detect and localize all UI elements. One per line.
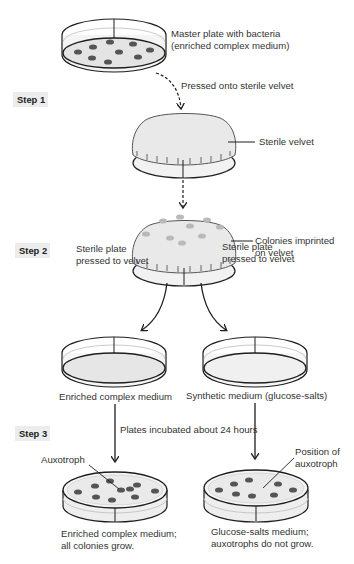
colony [232, 491, 240, 496]
step-2-badge: Step 2 [15, 243, 50, 258]
colony [92, 494, 100, 499]
colony [126, 486, 134, 491]
dashed-arrow-master-to-velvet [156, 73, 181, 108]
step-1-badge: Step 1 [13, 92, 48, 107]
synthetic-medium-label: Synthetic medium (glucose-salts) [186, 390, 327, 401]
colony [89, 44, 97, 49]
sterile-plate-right-line2: pressed to velvet [222, 253, 295, 264]
step-3-badge: Step 3 [15, 426, 50, 441]
colony [215, 487, 223, 492]
step-1-label: Step 1 [17, 94, 45, 105]
colony [108, 497, 116, 502]
sterile-velvet-label: Sterile velvet [259, 136, 314, 147]
colony [248, 493, 256, 498]
master-plate-label-line2: (enriched complex medium) [171, 40, 289, 51]
colony [106, 39, 114, 44]
imprinted-colony [216, 224, 224, 229]
colony [131, 494, 139, 499]
arrow-to-synthetic-plate [201, 283, 226, 330]
imprinted-colony [186, 223, 194, 228]
colony [270, 492, 278, 497]
sterile-velvet [132, 114, 255, 179]
colony [115, 49, 123, 54]
colony [146, 47, 154, 52]
colony [88, 55, 96, 60]
enriched-result-plate [63, 465, 167, 522]
synthetic-medium-plate [203, 337, 307, 387]
imprinted-colony [203, 217, 211, 222]
colony [133, 482, 141, 487]
colony [230, 481, 238, 486]
pressed-onto-velvet-label: Pressed onto sterile velvet [181, 80, 294, 91]
colony [289, 487, 297, 492]
sterile-plate-right-line1: Sterile plate [222, 241, 273, 252]
position-of-auxotroph-line2: auxotroph [295, 458, 338, 469]
colony [245, 477, 253, 482]
colony [74, 489, 82, 494]
sterile-plate-left-line1: Sterile plate [76, 243, 127, 254]
position-of-auxotroph-line1: Position of [295, 446, 340, 457]
master-plate-label-line1: Master plate with bacteria [171, 28, 281, 39]
colony [104, 59, 112, 64]
sterile-plate-left-line2: pressed to velvet [76, 255, 149, 266]
imprinted-colony [176, 214, 184, 219]
colony [74, 49, 82, 54]
imprinted-colony [178, 240, 186, 245]
colony [91, 483, 99, 488]
imprinted-colony [166, 235, 174, 240]
step-2-label: Step 2 [19, 245, 47, 256]
result-right-line2: auxotrophs do not grow. [211, 538, 313, 549]
colony [274, 481, 282, 486]
colony [134, 54, 142, 59]
result-left-line1: Enriched complex medium; [61, 528, 177, 539]
auxotroph-label: Auxotroph [41, 454, 85, 465]
arrow-to-enriched-plate [142, 283, 167, 330]
enriched-medium-label: Enriched complex medium [59, 391, 172, 402]
incubated-label: Plates incubated about 24 hours [120, 424, 258, 435]
imprinted-colony [159, 218, 167, 223]
result-right-line1: Glucose-salts medium; [211, 526, 309, 537]
result-left-line2: all colonies grow. [61, 540, 134, 551]
colony [129, 41, 137, 46]
enriched-medium-plate [62, 337, 166, 387]
colony [151, 488, 159, 493]
replica-plating-diagram: Master plate with bacteria (enriched com… [0, 0, 354, 564]
imprinted-colony [142, 231, 150, 236]
glucose-salts-result-plate [204, 458, 308, 522]
step-3-label: Step 3 [19, 428, 47, 439]
master-plate [62, 19, 166, 72]
imprinted-colony [198, 233, 206, 238]
